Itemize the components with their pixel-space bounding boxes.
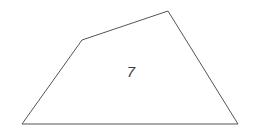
figure-canvas: 7 (0, 0, 255, 136)
geometry-figure: 7 (0, 0, 255, 136)
shape-label-7: 7 (127, 63, 136, 80)
